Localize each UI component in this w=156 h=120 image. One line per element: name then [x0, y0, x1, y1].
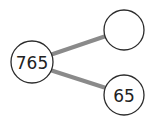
number-bond-diagram: 765 65 [0, 0, 156, 120]
part-circle-top-group[interactable] [104, 10, 144, 50]
whole-circle-group: 765 [11, 41, 53, 83]
part-value-bottom: 65 [113, 86, 135, 106]
whole-value: 765 [16, 53, 48, 73]
connector-line-bottom [50, 70, 106, 88]
part-circle-top[interactable] [104, 10, 144, 50]
part-circle-bottom-group: 65 [104, 75, 144, 115]
connector-line-top [50, 36, 106, 55]
